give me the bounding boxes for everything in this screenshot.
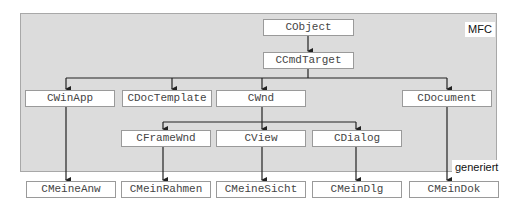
class-cmeindok: CMeinDok: [409, 181, 499, 198]
generated-label: generiert: [452, 160, 501, 175]
class-cwnd: CWnd: [216, 90, 306, 107]
class-cdialog: CDialog: [312, 130, 402, 147]
class-cmeinrahmen: CMeinRahmen: [121, 181, 211, 198]
class-ccmdtarget: CCmdTarget: [263, 52, 354, 69]
class-cview: CView: [216, 130, 306, 147]
class-cobject: CObject: [263, 19, 354, 36]
class-cmeineanw: CMeineAnw: [26, 181, 116, 198]
mfc-label: MFC: [465, 22, 495, 37]
class-cdoctemplate: CDocTemplate: [122, 90, 212, 107]
class-cmeindlg: CMeinDlg: [312, 181, 402, 198]
class-cmeinesicht: CMeineSicht: [216, 181, 306, 198]
class-cdocument: CDocument: [402, 90, 492, 107]
class-cwinapp: CWinApp: [25, 90, 115, 107]
class-cframewnd: CFrameWnd: [121, 130, 211, 147]
